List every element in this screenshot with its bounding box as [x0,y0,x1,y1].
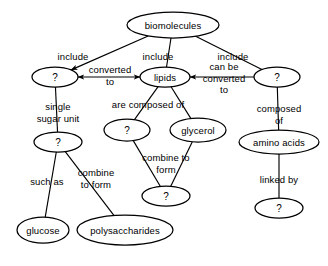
node-label-proteins-unknown[interactable]: ? [274,72,280,83]
node-label-lipids[interactable]: lipids [154,72,176,83]
node-label-fatty-acids-unknown[interactable]: ? [124,125,130,136]
link-label-include-middle: include [143,51,174,63]
node-label-triglyceride-unknown[interactable]: ? [163,191,169,202]
concept-map-canvas: biomolecules ? lipids ? ? ? glycerol ami… [0,0,328,266]
link-label-combine-to-form-1: combineto form [78,167,115,190]
node-label-amino-acids[interactable]: amino acids [253,137,305,148]
link-label-composed-of: composedof [257,103,302,126]
link-label-such-as: such as [30,176,63,188]
node-label-carbohydrates-unknown[interactable]: ? [52,72,58,83]
node-label-biomolecules[interactable]: biomolecules [145,20,202,31]
link-label-converted-to: convertedto [89,64,132,87]
link-label-include-left: include [58,51,89,63]
node-label-peptide-bond-unknown[interactable]: ? [276,203,282,214]
link-label-single-sugar-unit: singlesugar unit [37,101,80,124]
node-label-glycerol[interactable]: glycerol [181,125,215,136]
link-label-can-be-converted-to: can beconvertedto [203,61,246,96]
node-label-monosaccharide-unknown[interactable]: ? [55,137,61,148]
node-label-glucose[interactable]: glucose [26,225,59,236]
link-label-are-composed-of: are composed of [112,99,184,111]
link-label-linked-by: linked by [260,174,298,186]
link-label-combine-to-form-2: combine toform [142,152,189,175]
node-label-polysaccharides[interactable]: polysaccharides [90,225,160,236]
